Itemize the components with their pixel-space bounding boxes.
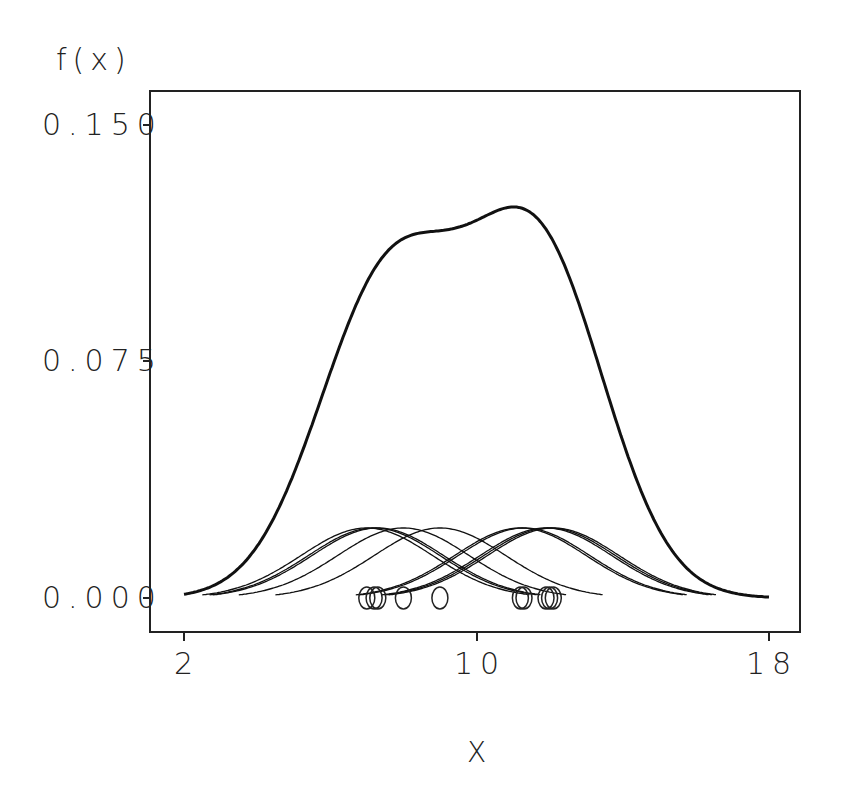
x-tick-label-2: 2 [174, 646, 200, 681]
y-tick-label-0.150: 0.150 [42, 107, 163, 142]
y-tick-label-0.075: 0.075 [42, 343, 163, 378]
kernel-curves [202, 528, 716, 595]
data-point-circle [542, 587, 558, 609]
data-point-circle [432, 587, 448, 609]
data-point-circle [395, 587, 411, 609]
plot-frame [150, 91, 800, 632]
y-axis-label: f(x) [56, 42, 132, 77]
data-point-markers [359, 587, 562, 609]
data-point-circle [512, 587, 528, 609]
data-point-circle [370, 587, 386, 609]
x-tick-label-18: 18 [746, 646, 798, 681]
x-axis-label: X [467, 736, 493, 769]
data-point-circle [516, 587, 532, 609]
x-tick-label-10: 10 [454, 646, 506, 681]
y-tick-label-0.000: 0.000 [42, 580, 163, 615]
